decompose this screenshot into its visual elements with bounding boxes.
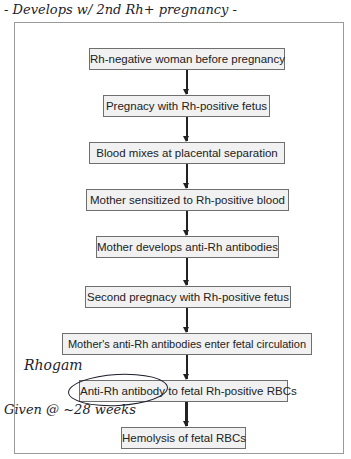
arrow-5-6 — [186, 258, 188, 285]
flow-step-2: Pregnacy with Rh-positive fetus — [103, 95, 270, 117]
handwritten-given-note: Given @ ~28 weeks — [4, 402, 136, 417]
arrow-6-7 — [186, 308, 188, 332]
flow-step-1: Rh-negative woman before pregnancy — [89, 48, 285, 70]
arrow-8-9 — [185, 402, 188, 426]
arrow-1-2 — [186, 70, 188, 94]
flow-step-3: Blood mixes at placental separation — [89, 142, 285, 164]
flow-step-6: Second pregnacy with Rh-positive fetus — [85, 286, 291, 308]
arrow-4-5 — [186, 211, 188, 235]
flow-step-9: Hemolysis of fetal RBCs — [121, 427, 246, 449]
arrow-2-3 — [186, 117, 188, 141]
flow-step-4: Mother sensitized to Rh-positive blood — [86, 189, 289, 211]
arrow-3-4 — [186, 164, 188, 188]
arrow-7-8 — [186, 355, 188, 379]
handwritten-rhogam-label: Rhogam — [24, 357, 83, 373]
flow-step-5: Mother develops anti-Rh antibodies — [96, 236, 279, 258]
flow-step-7: Mother's anti-Rh antibodies enter fetal … — [62, 333, 312, 355]
handwritten-top-note: - Develops w/ 2nd Rh+ pregnancy - — [4, 2, 237, 17]
